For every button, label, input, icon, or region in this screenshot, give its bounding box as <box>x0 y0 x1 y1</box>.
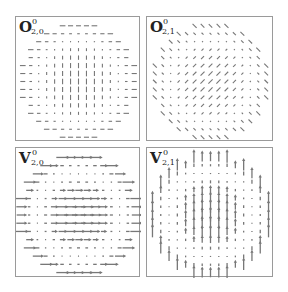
panel-label-v21: V02,1 <box>150 150 162 166</box>
panel-v20: V02,0 <box>15 147 140 277</box>
panel-label-o20: O02,0 <box>19 19 32 35</box>
panel-label-o21: O02,1 <box>150 19 163 35</box>
panel-label-v20: V02,0 <box>19 150 31 166</box>
vector-field-v20 <box>16 148 141 278</box>
panel-v21: V02,1 <box>146 147 273 277</box>
vector-field-v21 <box>147 148 274 278</box>
panel-o21: O02,1 <box>146 16 273 141</box>
panel-o20: O02,0 <box>15 16 140 141</box>
